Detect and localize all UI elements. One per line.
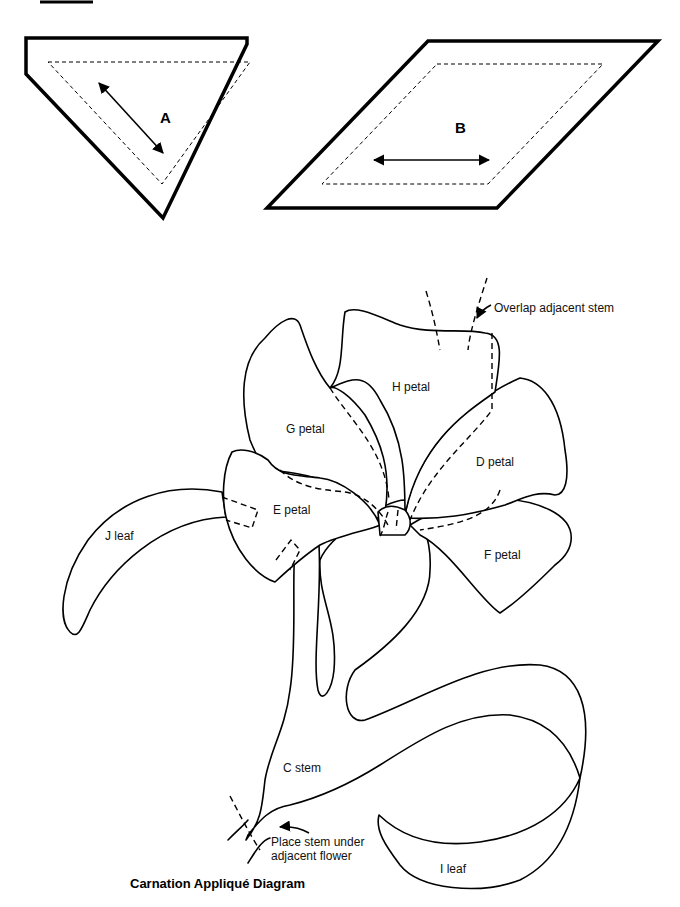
diagram-title: Carnation Appliqué Diagram: [130, 876, 305, 891]
place-stem-arrow-icon: [280, 827, 309, 833]
d-petal-label: D petal: [476, 455, 514, 469]
template-a-cut-line: [26, 38, 247, 218]
carnation-applique-diagram: A B Overlap ad: [0, 0, 680, 907]
template-b-label: B: [455, 119, 466, 136]
place-stem-note-line2: adjacent flower: [271, 849, 352, 863]
g-petal-label: G petal: [286, 422, 325, 436]
f-petal-label: F petal: [484, 548, 521, 562]
flower-center: [378, 506, 410, 535]
template-b: B: [267, 41, 658, 208]
overlap-note: Overlap adjacent stem: [494, 301, 614, 315]
place-stem-note-line1: Place stem under: [271, 835, 364, 849]
template-a-label: A: [160, 109, 171, 126]
adjacent-stem-stub: [228, 820, 248, 840]
adjacent-stem-stub-2: [248, 838, 270, 863]
c-stem-label: C stem: [283, 761, 321, 775]
h-petal-label: H petal: [392, 380, 430, 394]
overlap-arrow-icon: [477, 305, 491, 318]
i-leaf: [378, 778, 580, 888]
i-leaf-label: I leaf: [440, 862, 467, 876]
j-leaf-label: J leaf: [105, 529, 134, 543]
j-leaf: [63, 489, 226, 634]
e-petal-label: E petal: [273, 503, 310, 517]
template-a: A: [26, 38, 250, 218]
